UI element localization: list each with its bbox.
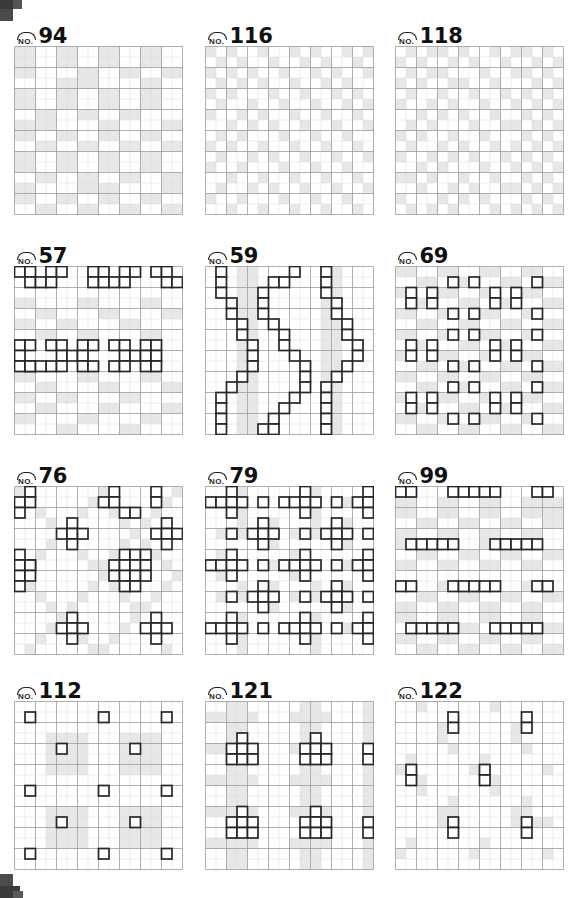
arc-icon bbox=[208, 32, 227, 40]
pattern-grid bbox=[395, 46, 564, 215]
arc-icon bbox=[398, 252, 417, 260]
pattern-grid bbox=[205, 701, 374, 870]
arc-icon bbox=[17, 472, 36, 480]
pattern-chart[interactable] bbox=[14, 486, 183, 655]
pattern-chart[interactable] bbox=[14, 266, 183, 435]
no-label: NO. bbox=[18, 472, 33, 486]
pattern-chart[interactable] bbox=[395, 46, 564, 215]
pattern-grid bbox=[14, 701, 183, 870]
arc-icon bbox=[208, 472, 227, 480]
corner-mark-top-left bbox=[0, 0, 34, 26]
pattern-panel[interactable]: NO.79 bbox=[205, 462, 374, 655]
pattern-panel-header: NO.57 bbox=[18, 242, 183, 266]
arc-icon bbox=[208, 252, 227, 260]
pattern-panel-header: NO.69 bbox=[399, 242, 564, 266]
pattern-panel-header: NO.79 bbox=[209, 462, 374, 486]
no-label: NO. bbox=[399, 32, 414, 46]
corner-mark-bottom-left bbox=[0, 868, 34, 898]
pattern-number: 94 bbox=[38, 27, 67, 46]
pattern-chart[interactable] bbox=[205, 46, 374, 215]
pattern-grid bbox=[205, 486, 374, 655]
pattern-number: 69 bbox=[419, 247, 448, 266]
pattern-chart[interactable] bbox=[205, 701, 374, 870]
arc-icon bbox=[398, 472, 417, 480]
pattern-grid bbox=[395, 701, 564, 870]
arc-icon bbox=[17, 252, 36, 260]
pattern-chart[interactable] bbox=[14, 701, 183, 870]
pattern-chart[interactable] bbox=[395, 486, 564, 655]
pattern-panel[interactable]: NO.76 bbox=[14, 462, 183, 655]
pattern-grid bbox=[14, 266, 183, 435]
pattern-panel[interactable]: NO.94 bbox=[14, 22, 183, 215]
pattern-grid bbox=[205, 46, 374, 215]
pattern-panel-header: NO.76 bbox=[18, 462, 183, 486]
pattern-chart[interactable] bbox=[14, 46, 183, 215]
pattern-panel[interactable]: NO.57 bbox=[14, 242, 183, 435]
pattern-panel[interactable]: NO.116 bbox=[205, 22, 374, 215]
pattern-sheet: NO.94NO.116NO.118NO.57NO.59NO.69NO.76NO.… bbox=[0, 0, 580, 898]
arc-icon bbox=[17, 687, 36, 695]
pattern-number: 118 bbox=[419, 27, 462, 46]
pattern-number: 59 bbox=[229, 247, 258, 266]
arc-icon bbox=[17, 32, 36, 40]
pattern-number: 116 bbox=[229, 27, 272, 46]
no-label: NO. bbox=[399, 252, 414, 266]
no-label: NO. bbox=[209, 687, 224, 701]
pattern-panel-header: NO.112 bbox=[18, 677, 183, 701]
pattern-panel-header: NO.99 bbox=[399, 462, 564, 486]
no-label: NO. bbox=[399, 687, 414, 701]
pattern-chart[interactable] bbox=[205, 266, 374, 435]
pattern-panel[interactable]: NO.59 bbox=[205, 242, 374, 435]
no-label: NO. bbox=[18, 32, 33, 46]
pattern-panel-header: NO.116 bbox=[209, 22, 374, 46]
pattern-panel-header: NO.121 bbox=[209, 677, 374, 701]
pattern-panel-header: NO.122 bbox=[399, 677, 564, 701]
pattern-grid bbox=[395, 266, 564, 435]
pattern-number: 99 bbox=[419, 467, 448, 486]
pattern-panel-header: NO.94 bbox=[18, 22, 183, 46]
arc-icon bbox=[398, 687, 417, 695]
pattern-panel[interactable]: NO.69 bbox=[395, 242, 564, 435]
pattern-grid bbox=[14, 486, 183, 655]
pattern-grid bbox=[395, 486, 564, 655]
no-label: NO. bbox=[399, 472, 414, 486]
pattern-grid bbox=[205, 266, 374, 435]
pattern-number: 57 bbox=[38, 247, 67, 266]
pattern-number: 76 bbox=[38, 467, 67, 486]
pattern-panel[interactable]: NO.121 bbox=[205, 677, 374, 870]
no-label: NO. bbox=[18, 252, 33, 266]
no-label: NO. bbox=[18, 687, 33, 701]
arc-icon bbox=[398, 32, 417, 40]
no-label: NO. bbox=[209, 32, 224, 46]
pattern-chart[interactable] bbox=[205, 486, 374, 655]
no-label: NO. bbox=[209, 252, 224, 266]
pattern-chart[interactable] bbox=[395, 701, 564, 870]
pattern-grid bbox=[14, 46, 183, 215]
pattern-panel[interactable]: NO.122 bbox=[395, 677, 564, 870]
pattern-chart[interactable] bbox=[395, 266, 564, 435]
arc-icon bbox=[208, 687, 227, 695]
pattern-panel[interactable]: NO.99 bbox=[395, 462, 564, 655]
pattern-number: 122 bbox=[419, 682, 462, 701]
pattern-panel[interactable]: NO.118 bbox=[395, 22, 564, 215]
pattern-panel-header: NO.118 bbox=[399, 22, 564, 46]
pattern-number: 112 bbox=[38, 682, 81, 701]
pattern-panel-header: NO.59 bbox=[209, 242, 374, 266]
pattern-number: 79 bbox=[229, 467, 258, 486]
no-label: NO. bbox=[209, 472, 224, 486]
pattern-number: 121 bbox=[229, 682, 272, 701]
pattern-panel[interactable]: NO.112 bbox=[14, 677, 183, 870]
